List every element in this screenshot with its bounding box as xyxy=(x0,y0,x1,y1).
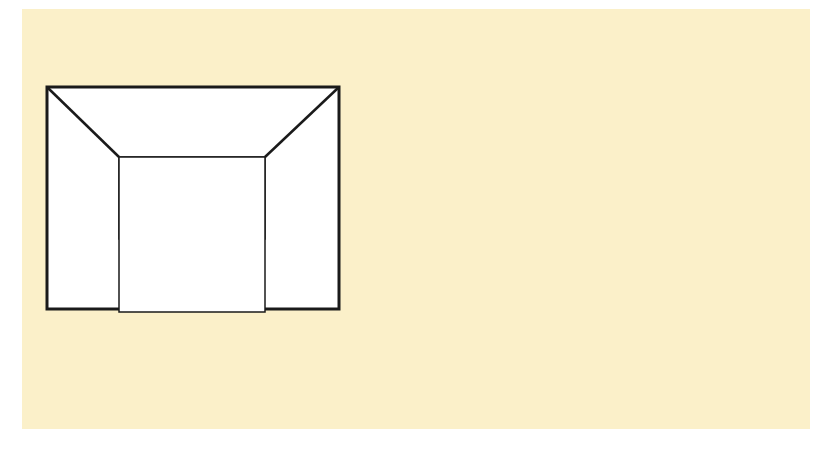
panel-a-diagram xyxy=(0,0,817,475)
